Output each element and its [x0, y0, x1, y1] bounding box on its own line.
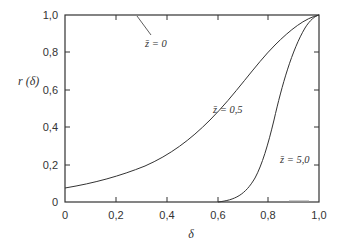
label-z-0: z̄ = 0	[144, 38, 167, 49]
label-z-0-5: z̄ = 0,5	[212, 104, 243, 115]
x-tick-label: 0	[62, 209, 68, 221]
y-tick-label: 0,8	[43, 46, 58, 58]
x-tick-label: 0,8	[260, 209, 275, 221]
y-tick-label: 1,0	[43, 9, 58, 21]
y-tick-label: 0,6	[43, 84, 58, 96]
z0-leader-line	[137, 16, 151, 35]
x-tick-label: 0,6	[210, 209, 225, 221]
x-tick-label: 0,4	[159, 209, 174, 221]
x-tick-label: 0,2	[108, 209, 123, 221]
y-tick-label: 0	[52, 196, 58, 208]
x-tick-label: 1,0	[311, 209, 326, 221]
plot-frame	[65, 15, 319, 202]
y-tick-label: 0,4	[43, 121, 58, 133]
chart: 0 0,2 0,4 0,6 0,8 1,0 0 0,2 0,4 0,6 0,8 …	[0, 0, 339, 243]
y-axis-label: r (δ)	[18, 74, 39, 88]
y-tick-label: 0,2	[43, 159, 58, 171]
x-ticks	[116, 15, 268, 202]
label-z-5-0: z̄ = 5,0	[279, 154, 310, 165]
x-axis-label: δ	[188, 227, 194, 241]
y-ticks	[65, 52, 319, 165]
